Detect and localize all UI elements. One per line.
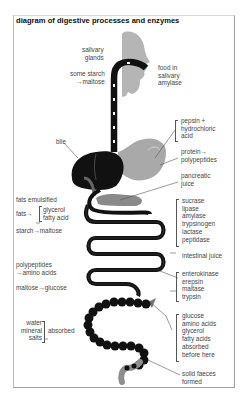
small-intestine xyxy=(86,205,163,296)
label-line: maltase xyxy=(182,285,219,293)
bracket-intestinal-enzymes xyxy=(176,272,179,302)
label-line: mineral xyxy=(18,327,42,335)
label-absorbed-items: water mineral salts xyxy=(18,319,42,342)
label-line: glands xyxy=(82,54,104,62)
label-line: lipase xyxy=(182,205,215,213)
label-line: glucose xyxy=(182,312,216,320)
bracket-absorbed-before xyxy=(176,314,179,362)
label-line: amino acids xyxy=(182,320,216,328)
label-line: peptidase xyxy=(182,236,215,244)
label-starch-maltose: starch→maltose xyxy=(16,227,62,235)
label-line: acid xyxy=(181,132,215,140)
label-line: hydrochloric xyxy=(181,125,215,133)
label-line: glycerol xyxy=(182,327,216,335)
label-fats-products: glycerol fatty acid xyxy=(43,206,69,221)
label-line: fatty acid xyxy=(43,214,69,222)
label-pancreatic-juice: pancreatic juice xyxy=(181,172,211,187)
label-protein: protein→ polypeptides xyxy=(181,148,217,163)
label-food-in-saliva: food in salivary amylase xyxy=(158,64,182,87)
label-line: salivary xyxy=(158,72,182,80)
label-line: salivary xyxy=(82,46,104,54)
label-intestinal-juice: intestinal juice xyxy=(182,252,222,260)
label-line: pepsin + xyxy=(181,117,215,125)
label-line: food in xyxy=(158,64,182,72)
label-line: erepsin xyxy=(182,278,219,286)
label-salivary-glands: salivary glands xyxy=(82,46,104,61)
label-intestinal-enzymes: enterokinase erepsin maltase trypsin xyxy=(182,270,219,301)
label-line: trypsin xyxy=(182,293,219,301)
label-faeces: solid faeces formed xyxy=(182,370,216,385)
label-line: amylase xyxy=(182,212,215,220)
label-some-starch: some starch →maltose xyxy=(70,70,105,85)
label-line: glycerol xyxy=(43,206,69,214)
pancreas xyxy=(96,194,142,206)
label-line: polypeptides xyxy=(181,156,217,164)
label-line: water xyxy=(18,319,42,327)
bracket-fats xyxy=(39,206,42,222)
bracket-pancreatic-enzymes xyxy=(176,199,179,247)
label-pancreatic-enzymes: sucrase lipase amylase trypsinogen lacta… xyxy=(182,197,215,243)
label-line: solid faeces xyxy=(182,370,216,378)
label-absorbed-before: glucose amino acids glycerol fatty acids… xyxy=(182,312,216,358)
label-line: enterokinase xyxy=(182,270,219,278)
liver xyxy=(72,151,124,190)
label-line: sucrase xyxy=(182,197,215,205)
label-line: some starch xyxy=(70,70,105,78)
label-line: trypsinogen xyxy=(182,220,215,228)
label-fats-arrow: fats→ xyxy=(16,210,33,218)
label-line: →amino acids xyxy=(16,269,57,277)
label-line: pancreatic xyxy=(181,172,211,180)
label-absorbed: absorbed xyxy=(48,327,75,335)
label-line: protein→ xyxy=(181,148,217,156)
label-maltose-glucose: maltose→glucose xyxy=(16,284,67,292)
large-intestine xyxy=(84,298,151,370)
label-line: formed xyxy=(182,378,216,386)
label-fats-emulsified: fats emulsified xyxy=(16,196,57,204)
label-line: lactase xyxy=(182,228,215,236)
label-polypeptides: polypeptides →amino acids xyxy=(16,261,57,276)
stomach xyxy=(118,139,166,181)
rectum xyxy=(121,362,140,382)
label-line: juice xyxy=(181,180,211,188)
label-line: before here xyxy=(182,351,216,359)
label-line: polypeptides xyxy=(16,261,57,269)
label-line: fatty acids xyxy=(182,335,216,343)
bracket-stomach-enzymes xyxy=(175,120,178,142)
label-line: amylase xyxy=(158,79,182,87)
label-stomach-enzymes: pepsin + hydrochloric acid xyxy=(181,117,215,140)
label-bile: bile xyxy=(56,138,66,146)
label-line: →maltose xyxy=(70,78,105,86)
bracket-absorbed xyxy=(42,321,45,343)
label-line: salts xyxy=(18,334,42,342)
label-line: absorbed xyxy=(182,343,216,351)
